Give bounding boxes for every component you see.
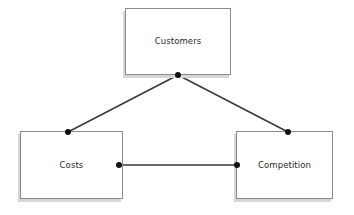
- junction-dot-customers-bottom: [175, 72, 181, 78]
- junction-dot-costs-right: [116, 162, 122, 168]
- node-customers-label: Customers: [155, 37, 202, 46]
- node-competition-label: Competition: [258, 161, 311, 170]
- edge-customers-competition: [178, 75, 288, 132]
- junction-dot-competition-left: [234, 162, 240, 168]
- node-costs[interactable]: Costs: [20, 131, 123, 199]
- junction-dot-competition-top: [285, 129, 291, 135]
- node-competition[interactable]: Competition: [236, 131, 333, 199]
- junction-dot-costs-top: [65, 129, 71, 135]
- node-customers[interactable]: Customers: [125, 8, 231, 75]
- edge-customers-costs: [68, 75, 178, 132]
- diagram-canvas: Customers Costs Competition: [0, 0, 354, 215]
- node-costs-label: Costs: [60, 161, 84, 170]
